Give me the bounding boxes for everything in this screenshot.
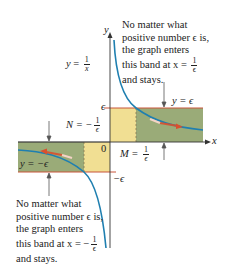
lower-band-label: y = −ϵ	[20, 158, 48, 169]
top-note: No matter what positive number ϵ is, the…	[122, 19, 209, 86]
eps-tick-label: ϵ	[101, 101, 105, 112]
neg-eps-tick-label: −ϵ	[113, 173, 124, 184]
x-axis-arrow-icon	[205, 140, 211, 145]
y-axis-label: y	[104, 24, 109, 35]
x-axis-label: x	[212, 135, 217, 146]
upper-band-label: y = ϵ	[172, 95, 193, 106]
right-yellow-region	[110, 108, 136, 142]
M-label: M = 1ϵ	[120, 146, 149, 163]
N-label: N = −1ϵ	[66, 117, 100, 134]
bottom-note: No matter what positive number ϵ is, the…	[16, 198, 103, 265]
function-label: y = 1x	[66, 56, 90, 73]
origin-label: 0	[101, 143, 106, 154]
